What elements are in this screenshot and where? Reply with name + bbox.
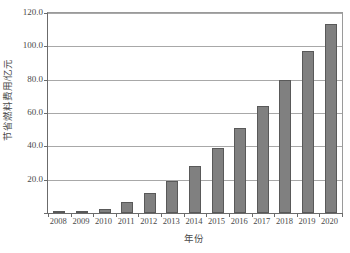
y-axis-title-text: 节省燃料费用/亿元 (0, 59, 14, 142)
x-tick-label: 2008 (47, 216, 70, 226)
x-tick-label: 2017 (250, 216, 273, 226)
bar-slot (161, 13, 184, 213)
bar (99, 209, 111, 213)
bar (257, 106, 269, 213)
bar (121, 202, 133, 213)
bar (212, 148, 224, 213)
plot-area (47, 12, 343, 214)
bar-slot (138, 13, 161, 213)
bar (279, 80, 291, 213)
y-tick-label: 100.0 (14, 41, 46, 50)
bar (325, 24, 337, 213)
bar (302, 51, 314, 213)
bar-slot (93, 13, 116, 213)
bar-slot (206, 13, 229, 213)
bar-slot (229, 13, 252, 213)
x-axis-title: 年份 (47, 231, 341, 245)
y-axis-title: 节省燃料费用/亿元 (0, 0, 14, 200)
x-tick-label: 2014 (183, 216, 206, 226)
bar (144, 193, 156, 213)
bar-series (48, 13, 342, 213)
bar (53, 211, 65, 213)
bar-slot (48, 13, 71, 213)
x-tick-mark (342, 213, 343, 217)
x-tick-label: 2009 (70, 216, 93, 226)
x-tick-label: 2013 (160, 216, 183, 226)
y-axis-tick-labels: 20.040.060.080.0100.0120.0 (14, 0, 46, 253)
bar-slot (71, 13, 94, 213)
x-tick-label: 2019 (296, 216, 319, 226)
y-tick-label: 80.0 (14, 74, 46, 83)
y-tick-label: 120.0 (14, 8, 46, 17)
x-tick-label: 2015 (205, 216, 228, 226)
y-tick-label: 40.0 (14, 141, 46, 150)
bar (234, 128, 246, 213)
bar-slot (319, 13, 342, 213)
bar-slot (184, 13, 207, 213)
x-tick-label: 2018 (273, 216, 296, 226)
bar-chart-figure: 节省燃料费用/亿元 20.040.060.080.0100.0120.0 200… (0, 0, 350, 253)
bar (166, 181, 178, 213)
x-tick-label: 2016 (228, 216, 251, 226)
x-axis-tick-labels: 2008200920102011201220132014201520162017… (47, 216, 341, 226)
y-tick-label: 20.0 (14, 174, 46, 183)
bar (76, 211, 88, 213)
x-tick-label: 2012 (137, 216, 160, 226)
y-tick-label: 60.0 (14, 108, 46, 117)
x-tick-label: 2020 (318, 216, 341, 226)
bar-slot (274, 13, 297, 213)
x-tick-label: 2010 (92, 216, 115, 226)
bar-slot (116, 13, 139, 213)
bar-slot (251, 13, 274, 213)
bar-slot (297, 13, 320, 213)
bar (189, 166, 201, 213)
x-tick-label: 2011 (115, 216, 138, 226)
